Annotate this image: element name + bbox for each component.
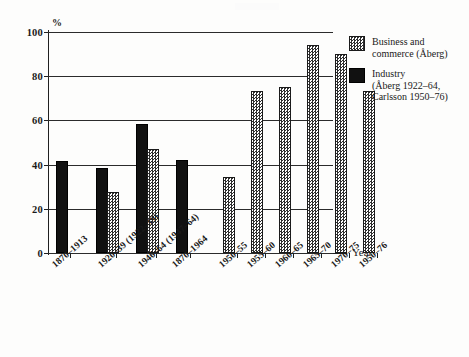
bar-business-2: [147, 149, 159, 253]
y-tick-mark-20: [44, 209, 48, 210]
bar-business-8: [335, 54, 347, 253]
gridline-100: [48, 32, 333, 33]
legend-swatch-industry: [349, 68, 365, 83]
chart-figure: % Year 020406080100 1870–19131920–39 (19…: [0, 0, 469, 357]
legend-item-business: Business and commerce (Åberg): [349, 36, 469, 59]
chart-legend: Business and commerce (Åberg)Industry (Å…: [349, 36, 469, 112]
bar-business-9: [363, 91, 375, 253]
bar-industry-0: [56, 161, 68, 253]
scan-artifact: [235, 3, 279, 10]
bar-business-5: [251, 91, 263, 253]
bar-industry-3: [176, 160, 188, 253]
legend-swatch-business: [349, 36, 365, 51]
y-tick-mark-40: [44, 165, 48, 166]
y-tick-mark-100: [44, 32, 48, 33]
y-tick-mark-0: [44, 253, 48, 254]
legend-label-industry: Industry (Åberg 1922–64, Carlsson 1950–7…: [372, 68, 448, 103]
bar-business-6: [279, 87, 291, 253]
legend-item-industry: Industry (Åberg 1922–64, Carlsson 1950–7…: [349, 68, 469, 103]
legend-label-business: Business and commerce (Åberg): [372, 36, 448, 59]
y-tick-mark-60: [44, 120, 48, 121]
y-axis-unit-label: %: [52, 17, 62, 28]
gridline-80: [48, 76, 333, 77]
bar-business-4: [223, 177, 235, 253]
bar-business-7: [307, 45, 319, 253]
y-tick-mark-80: [44, 76, 48, 77]
